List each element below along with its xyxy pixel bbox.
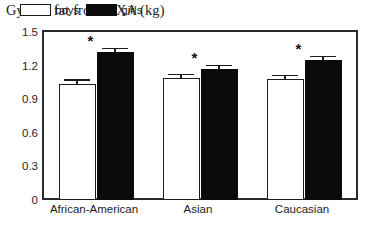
- error-bar-stem: [114, 48, 116, 53]
- y-tick-label: 0.9: [4, 94, 38, 104]
- significance-star: *: [88, 36, 94, 46]
- legend-label-girls: girls: [121, 5, 142, 16]
- bar-group: *: [44, 32, 148, 200]
- error-bar-cap: [102, 48, 129, 50]
- bar-boys-asian: [163, 78, 200, 200]
- bar-group: *: [148, 32, 252, 200]
- x-tick-label: Caucasian: [250, 203, 354, 215]
- chart-figure: Gynoid fat from DXA (kg) 00.30.60.91.21.…: [0, 0, 369, 237]
- plot-area: ***: [44, 32, 356, 200]
- bar-boys-african-american: [59, 84, 96, 200]
- error-bar: [98, 48, 133, 53]
- legend-entry-girls: girls: [86, 4, 142, 16]
- error-bar-cap: [272, 75, 299, 77]
- legend-swatch-boys-icon: [20, 4, 51, 16]
- error-bar-stem: [284, 75, 286, 80]
- error-bar: [306, 56, 341, 61]
- legend-label-boys: boys: [55, 5, 79, 16]
- error-bar: [60, 79, 95, 84]
- y-axis: 00.30.60.91.21.5: [2, 30, 38, 200]
- bar-boys-caucasian: [267, 79, 304, 200]
- significance-star: *: [192, 53, 198, 63]
- x-axis: African-AmericanAsianCaucasian: [42, 203, 358, 225]
- error-bar-stem: [76, 79, 78, 84]
- error-bar: [164, 74, 199, 79]
- y-tick-label: 0.3: [4, 161, 38, 171]
- x-tick-label: Asian: [146, 203, 250, 215]
- error-bar-stem: [322, 56, 324, 61]
- legend-entry-boys: boys: [20, 4, 79, 16]
- y-tick-label: 1.2: [4, 61, 38, 71]
- y-tick-label: 1.5: [4, 27, 38, 37]
- significance-star: *: [296, 44, 302, 54]
- error-bar-stem: [180, 74, 182, 79]
- y-tick-label: 0: [4, 195, 38, 205]
- error-bar: [202, 65, 237, 70]
- x-tick-label: African-American: [42, 203, 146, 215]
- error-bar-cap: [206, 65, 233, 67]
- error-bar-cap: [310, 56, 337, 58]
- bar-group: *: [252, 32, 356, 200]
- chart-legend: boys girls: [20, 4, 142, 16]
- legend-swatch-girls-icon: [86, 4, 117, 16]
- error-bar-cap: [64, 79, 91, 81]
- error-bar: [268, 75, 303, 80]
- bar-girls-african-american: [97, 52, 134, 200]
- error-bar-stem: [218, 65, 220, 70]
- error-bar-cap: [168, 74, 195, 76]
- y-tick-label: 0.6: [4, 128, 38, 138]
- bar-girls-caucasian: [305, 60, 342, 200]
- bar-girls-asian: [201, 69, 238, 200]
